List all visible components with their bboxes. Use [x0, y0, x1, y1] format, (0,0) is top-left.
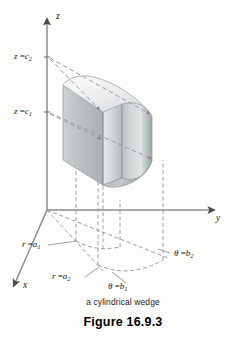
label-r-a2: r =a2 — [52, 272, 71, 283]
figure-caption: a cylindrical wedge — [0, 296, 246, 308]
y-axis-label: y — [216, 214, 220, 224]
label-r-a2-var: r — [52, 271, 56, 281]
label-r-a1: r =a1 — [22, 240, 41, 251]
wedge-solid — [63, 76, 152, 187]
base-wedge-group — [47, 210, 168, 272]
label-z-c2-var: z — [14, 51, 18, 61]
arc-r-a2 — [98, 260, 163, 271]
leader-r-a1 — [48, 241, 76, 245]
label-theta-b1: θ =b1 — [108, 282, 128, 293]
leader-r-a2 — [85, 267, 99, 277]
label-theta-b2-var: θ — [174, 248, 178, 258]
label-z-c2: z =c2 — [14, 52, 32, 63]
figure-container: z y x z =c2 z =c1 r =a1 r =a2 θ =b1 θ =b… — [0, 0, 246, 349]
wedge-curved-surface — [122, 103, 152, 180]
label-z-c1-var: z — [14, 106, 18, 116]
caption-block: a cylindrical wedge Figure 16.9.3 — [0, 296, 246, 329]
figure-number: Figure 16.9.3 — [0, 315, 246, 329]
ray-theta-b2 — [47, 210, 168, 258]
label-theta-b1-sub: 1 — [124, 285, 127, 292]
label-theta-b2: θ =b2 — [174, 249, 194, 260]
label-z-c2-sub: 2 — [29, 55, 32, 62]
x-axis-label: x — [23, 281, 27, 291]
label-r-a2-sub: 2 — [67, 275, 70, 282]
cylindrical-wedge-diagram — [0, 0, 246, 300]
leader-theta-b2 — [158, 249, 170, 253]
label-r-a1-var: r — [22, 239, 26, 249]
label-z-c1-sub: 1 — [29, 110, 32, 117]
label-z-c1: z =c1 — [14, 107, 32, 118]
label-r-a1-sub: 1 — [37, 243, 40, 250]
z-axis-label: z — [56, 12, 60, 22]
label-theta-b1-var: θ — [108, 281, 112, 291]
label-theta-b2-sub: 2 — [190, 252, 193, 259]
